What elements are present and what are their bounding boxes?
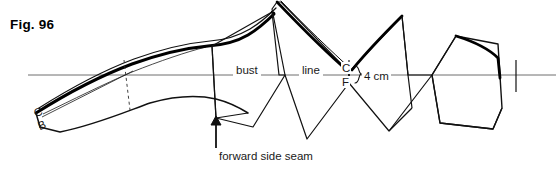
panel-3-heavy-upper-edge [277, 2, 349, 72]
panel-4-heavy-upper-edge [352, 16, 402, 70]
panel-3-thin-upper-edge [281, 1, 352, 70]
panel-5-outline [432, 36, 502, 129]
point-c-center-label: C [341, 62, 351, 74]
panel-5-left-upper-edge [432, 36, 456, 75]
bust-label: bust [233, 64, 261, 76]
left-panel-upper-thin-edge [39, 8, 276, 108]
point-f-label: F [341, 76, 350, 88]
line-label: line [299, 64, 323, 76]
figure-title: Fig. 96 [10, 17, 54, 32]
figure-container: Fig. 96 bust line C F 4 cm C B forward s… [0, 0, 560, 169]
panel-5-lower-left-edge [432, 75, 502, 129]
left-panel-construction-line [42, 71, 133, 117]
panel-5-heavy-upper-edge [456, 36, 500, 78]
panel-4-lower-edge [389, 108, 412, 131]
panel-1-right-edge [216, 113, 248, 118]
pattern-diagram-svg [0, 0, 560, 169]
four-cm-measure-label: 4 cm [362, 70, 391, 82]
panel-4-right-vertical [402, 16, 412, 108]
forward-side-seam-caption: forward side seam [219, 150, 313, 162]
